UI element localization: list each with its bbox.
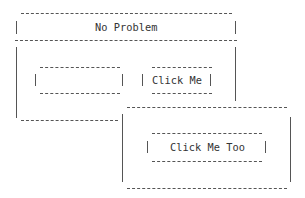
text-input-left-border [35, 74, 36, 86]
popup-window-top-border [127, 107, 287, 108]
main-window-title-right-border [235, 21, 236, 34]
main-window-right-border [235, 47, 236, 101]
click-me-too-button[interactable]: Click Me Too [145, 132, 269, 162]
click-me-too-button-left-border [147, 141, 148, 153]
click-me-button-right-border [210, 74, 211, 86]
click-me-button-label[interactable]: Click Me [152, 74, 202, 86]
click-me-too-button-label[interactable]: Click Me Too [170, 141, 245, 153]
text-input-field[interactable] [34, 66, 126, 94]
text-input-bottom-border [40, 93, 120, 94]
click-me-button-top-border [152, 67, 212, 68]
popup-window-right-border [290, 117, 291, 182]
click-me-too-button-top-border [152, 133, 262, 134]
main-window-bottom-border [21, 120, 118, 121]
click-me-button-left-border [142, 74, 143, 86]
click-me-too-button-bottom-border [152, 161, 262, 162]
click-me-button[interactable]: Click Me [140, 66, 215, 94]
text-input-right-border [122, 74, 123, 86]
popup-window-bottom-border [127, 188, 287, 189]
click-me-too-button-right-border [265, 141, 266, 153]
main-window-title: No Problem [95, 21, 158, 33]
click-me-button-bottom-border [152, 93, 212, 94]
popup-window-left-border [122, 114, 123, 182]
main-window-left-border [16, 47, 17, 118]
main-window-top-border [21, 13, 232, 14]
main-window-title-left-border [16, 21, 17, 34]
main-window-title-separator [15, 40, 237, 41]
text-input-top-border [40, 67, 120, 68]
